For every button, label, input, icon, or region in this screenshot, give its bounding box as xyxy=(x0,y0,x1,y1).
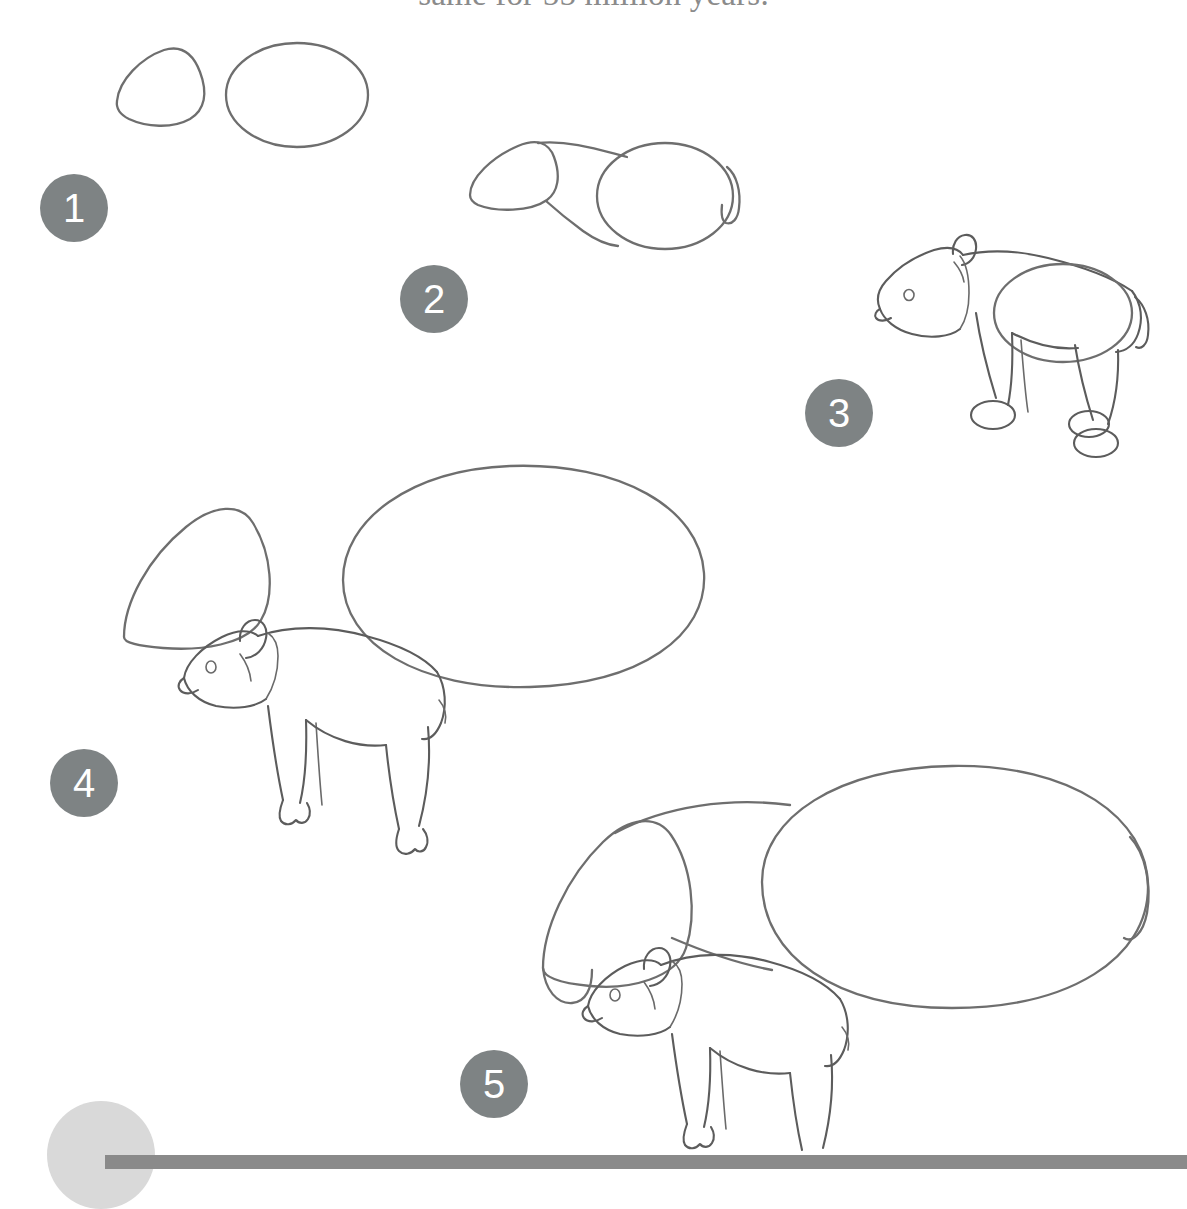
step-3-artwork xyxy=(875,235,1148,457)
tapir-hind-leg-near-step3 xyxy=(1075,345,1093,420)
tapir-hind-foot-near-step3 xyxy=(1069,411,1109,437)
tapir-belly-step3 xyxy=(1012,333,1078,348)
tapir-ear-inner-step5 xyxy=(644,982,655,1009)
body-oval-guide xyxy=(226,43,368,147)
tapir-hind-foot-far-step3 xyxy=(1074,429,1118,457)
tapir-shoulder-step5 xyxy=(670,961,682,1027)
tapir-front-leg-far-step4 xyxy=(316,723,322,805)
tapir-eye-step4 xyxy=(206,661,216,673)
tail-step2 xyxy=(722,167,740,223)
tapir-hind-leg-near-rear-step4 xyxy=(419,727,429,826)
step-badge-2-number: 2 xyxy=(423,277,445,322)
tapir-hind-hoof-near-step4 xyxy=(396,829,427,854)
tapir-hind-leg-near-rear-step5 xyxy=(823,1055,832,1148)
tapir-head-body-step3 xyxy=(878,248,963,309)
tapir-belly-step5 xyxy=(710,1048,790,1074)
neck-connector-bottom xyxy=(546,201,618,246)
tapir-hind-leg-near-step4 xyxy=(386,745,399,829)
tapir-hind-leg-near-back-step3 xyxy=(1108,350,1118,424)
body-oval-guide-step3 xyxy=(994,264,1132,362)
step-badge-1[interactable]: 1 xyxy=(40,174,108,242)
step-4-artwork xyxy=(124,466,704,854)
tapir-head-top-step4 xyxy=(184,631,258,678)
tapir-front-leg-near-step4 xyxy=(268,706,283,800)
tapir-tail-step5 xyxy=(842,1027,849,1050)
tapir-ear-step4 xyxy=(240,620,267,658)
head-triangle-guide xyxy=(117,48,204,125)
tail-xl xyxy=(1124,837,1149,939)
head-triangle-guide-step2 xyxy=(470,142,558,210)
tapir-front-hoof-near-step5 xyxy=(684,1124,714,1148)
body-oval-guide-xl xyxy=(762,766,1148,1008)
step-2-artwork xyxy=(470,142,740,249)
step-badge-3-number: 3 xyxy=(828,391,850,436)
tapir-front-foot-near-step3 xyxy=(971,401,1015,429)
body-oval-guide-large xyxy=(343,466,704,687)
tapir-rump-step5 xyxy=(825,999,848,1066)
tapir-tail-step4 xyxy=(439,700,446,723)
tapir-front-leg-near-back-step3 xyxy=(1008,333,1012,405)
step-badge-4[interactable]: 4 xyxy=(50,749,118,817)
tapir-head-top-step5 xyxy=(588,960,661,1006)
head-guide-flap-xl xyxy=(543,968,592,1003)
tapir-ear-inner-step3 xyxy=(954,262,964,282)
tapir-rump-step4 xyxy=(422,672,445,739)
tapir-ear-step3 xyxy=(953,235,976,265)
tapir-front-leg-near-step5 xyxy=(672,1034,687,1124)
tapir-snout-step3 xyxy=(875,309,891,321)
tapir-belly-step4 xyxy=(306,720,386,746)
head-triangle-guide-xl xyxy=(543,821,692,987)
tapir-shoulder-step4 xyxy=(266,633,278,699)
tapir-hind-leg-near-step5 xyxy=(790,1073,802,1150)
tapir-jaw-step5 xyxy=(588,1006,670,1036)
head-triangle-guide-large xyxy=(124,509,270,649)
step-badge-5-number: 5 xyxy=(483,1062,505,1107)
caption-text: same for 55 million years. xyxy=(0,0,1187,14)
neck-connector-bottom-xl xyxy=(672,938,772,970)
page-caption: same for 55 million years. xyxy=(0,0,1187,14)
tapir-cheek-step3 xyxy=(880,309,960,337)
step-badge-1-number: 1 xyxy=(63,186,85,231)
step-badge-5[interactable]: 5 xyxy=(460,1050,528,1118)
body-oval-guide-step2 xyxy=(597,143,733,249)
neck-connector-top-xl xyxy=(615,802,790,833)
tapir-back-step3 xyxy=(963,251,1132,291)
tapir-shoulder-step3 xyxy=(960,256,969,329)
tapir-front-leg-far-step5 xyxy=(720,1051,726,1129)
tapir-front-leg-far-step3 xyxy=(1021,340,1028,412)
tapir-front-leg-near-rear-step5 xyxy=(704,1048,710,1127)
tapir-back-step5 xyxy=(661,955,840,999)
tapir-snout-step5 xyxy=(583,1006,602,1021)
step-5-artwork xyxy=(543,766,1149,1150)
footer-bar-decoration xyxy=(105,1155,1187,1169)
tapir-rump-step3 xyxy=(1116,291,1141,352)
step-badge-2[interactable]: 2 xyxy=(400,265,468,333)
tapir-ear-inner-step4 xyxy=(240,654,251,681)
tapir-eye-step5 xyxy=(610,989,620,1001)
tapir-back-step4 xyxy=(258,628,437,672)
tapir-eye-step3 xyxy=(904,290,914,301)
tapir-front-hoof-near-step4 xyxy=(280,800,310,824)
step-1-artwork xyxy=(117,43,368,147)
step-badge-4-number: 4 xyxy=(73,761,95,806)
tapir-front-leg-near-rear-step4 xyxy=(300,720,306,803)
step-badge-3[interactable]: 3 xyxy=(805,379,873,447)
neck-connector-top xyxy=(538,142,627,157)
tapir-snout-step4 xyxy=(179,678,198,693)
tapir-jaw-step4 xyxy=(184,678,266,708)
tapir-front-leg-near-step3 xyxy=(976,313,996,398)
tapir-ear-step5 xyxy=(644,948,671,986)
tapir-tail-step3 xyxy=(1135,297,1148,348)
